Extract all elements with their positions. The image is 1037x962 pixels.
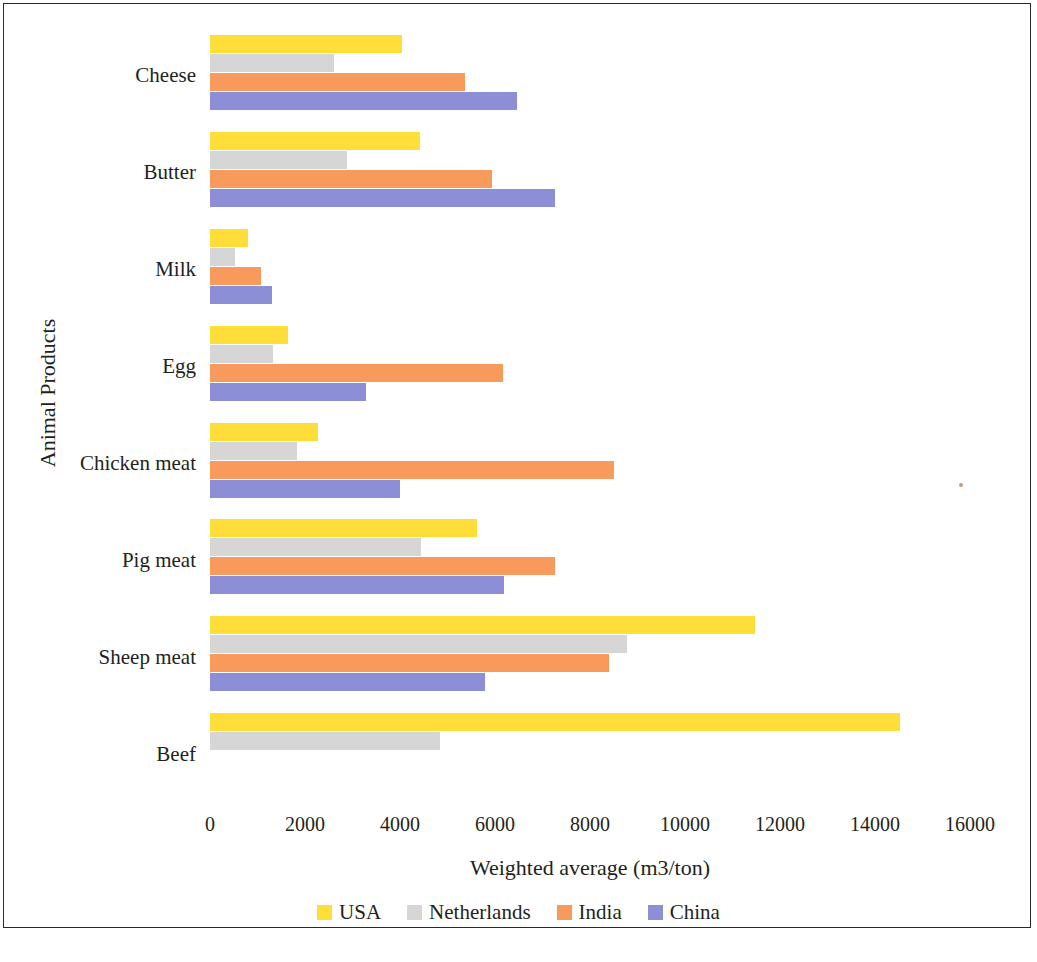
bar-netherlands-milk [210, 248, 235, 266]
x-tick-12000: 12000 [755, 813, 805, 836]
bar-group [210, 514, 970, 611]
bar-netherlands-pig-meat [210, 538, 421, 556]
legend-swatch-icon [648, 905, 663, 920]
bar-group [210, 611, 970, 708]
bar-usa-sheep-meat [210, 616, 755, 634]
y-tick-cheese: Cheese [0, 65, 196, 86]
bar-usa-egg [210, 326, 288, 344]
x-tick-2000: 2000 [285, 813, 325, 836]
bar-usa-pig-meat [210, 519, 477, 537]
bar-group [210, 321, 970, 418]
bar-india-pig-meat [210, 557, 555, 575]
bar-usa-butter [210, 132, 420, 150]
x-tick-6000: 6000 [475, 813, 515, 836]
bar-usa-beef [210, 713, 900, 731]
x-tick-14000: 14000 [850, 813, 900, 836]
chart-page: Animal Products CheeseButterMilkEggChick… [0, 0, 1037, 962]
legend-swatch-icon [407, 905, 422, 920]
legend-item-usa[interactable]: USA [317, 900, 381, 925]
bar-usa-chicken-meat [210, 423, 318, 441]
y-tick-sheep-meat: Sheep meat [0, 647, 196, 668]
bar-usa-cheese [210, 35, 402, 53]
y-tick-pig-meat: Pig meat [0, 550, 196, 571]
bar-china-sheep-meat [210, 673, 485, 691]
bar-india-chicken-meat [210, 461, 614, 479]
bar-netherlands-cheese [210, 54, 334, 72]
bar-group [210, 708, 970, 805]
legend-label: India [579, 900, 622, 925]
legend-label: China [670, 900, 720, 925]
x-axis-title: Weighted average (m3/ton) [210, 855, 970, 881]
legend-label: USA [339, 900, 381, 925]
bar-china-milk [210, 286, 272, 304]
bar-group [210, 418, 970, 515]
plot-area [210, 30, 970, 805]
y-tick-chicken-meat: Chicken meat [0, 453, 196, 474]
bar-india-milk [210, 267, 261, 285]
bar-netherlands-beef [210, 732, 440, 750]
x-tick-0: 0 [205, 813, 215, 836]
chart-legend: USANetherlandsIndiaChina [0, 900, 1037, 925]
bar-netherlands-butter [210, 151, 347, 169]
bar-usa-milk [210, 229, 248, 247]
bar-china-chicken-meat [210, 480, 400, 498]
grouped-bar-chart: Animal Products CheeseButterMilkEggChick… [0, 0, 1037, 930]
bar-netherlands-sheep-meat [210, 635, 627, 653]
bar-india-sheep-meat [210, 654, 609, 672]
x-tick-10000: 10000 [660, 813, 710, 836]
page-bottom-margin [0, 930, 1037, 962]
bar-china-egg [210, 383, 366, 401]
legend-swatch-icon [317, 905, 332, 920]
y-tick-beef: Beef [0, 744, 196, 765]
legend-swatch-icon [557, 905, 572, 920]
x-tick-8000: 8000 [570, 813, 610, 836]
x-tick-16000: 16000 [945, 813, 995, 836]
legend-item-china[interactable]: China [648, 900, 720, 925]
bar-china-butter [210, 189, 555, 207]
bar-china-pig-meat [210, 576, 504, 594]
bar-group [210, 127, 970, 224]
bar-netherlands-egg [210, 345, 273, 363]
bar-india-egg [210, 364, 503, 382]
bar-group [210, 30, 970, 127]
x-tick-4000: 4000 [380, 813, 420, 836]
legend-item-netherlands[interactable]: Netherlands [407, 900, 530, 925]
bar-china-cheese [210, 92, 517, 110]
scan-artifact-speck [959, 483, 963, 487]
bar-india-cheese [210, 73, 465, 91]
y-tick-milk: Milk [0, 259, 196, 280]
bar-netherlands-chicken-meat [210, 442, 297, 460]
legend-item-india[interactable]: India [557, 900, 622, 925]
y-tick-egg: Egg [0, 356, 196, 377]
y-tick-butter: Butter [0, 162, 196, 183]
bar-group [210, 224, 970, 321]
legend-label: Netherlands [429, 900, 530, 925]
bar-india-butter [210, 170, 492, 188]
